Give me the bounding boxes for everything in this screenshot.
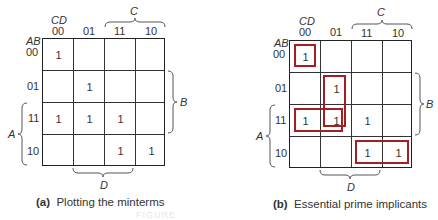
brace-a — [266, 104, 276, 168]
kmap-panel-b: C CD 00 01 11 10 AB 00 01 11 10 1 1 1 1 … — [219, 0, 438, 220]
var-a-label: A — [8, 129, 15, 140]
var-c-label: C — [130, 6, 138, 17]
var-c-label: C — [377, 7, 385, 18]
brace-d — [319, 170, 381, 180]
caption-text: Plotting the minterms — [56, 196, 164, 208]
col-label-01: 01 — [330, 27, 342, 38]
loop-m0 — [294, 44, 316, 67]
cell-r2-c2: 1 — [105, 103, 136, 135]
brace-b — [168, 70, 178, 134]
caption-b: (b) Essential prime implicants — [273, 198, 427, 210]
brace-d — [72, 168, 134, 178]
kmap-grid: 1 1 1 1 1 1 1 — [289, 40, 412, 168]
row-label-10: 10 — [27, 146, 39, 157]
var-a-label: A — [256, 131, 263, 142]
cell-r2-c2: 1 — [352, 105, 383, 137]
row-label-01: 01 — [275, 83, 287, 94]
brace-b — [415, 72, 425, 136]
brace-a — [18, 102, 28, 166]
col-label-10: 10 — [392, 28, 404, 39]
cell-r3-c2: 1 — [105, 135, 136, 167]
loop-row10-cols11-10 — [355, 140, 409, 164]
var-b-label: B — [426, 99, 433, 110]
var-d-label: D — [100, 180, 108, 191]
caption-text: Essential prime implicants — [294, 198, 427, 210]
col-label-10: 10 — [145, 26, 157, 37]
row-label-01: 01 — [27, 81, 39, 92]
col-label-00: 00 — [299, 27, 311, 38]
cell-r0-c0: 1 — [43, 39, 74, 71]
cell-r1-c1: 1 — [74, 71, 105, 103]
caption-a: (a) Plotting the minterms — [36, 196, 164, 208]
row-label-00: 00 — [273, 49, 285, 60]
row-label-10: 10 — [275, 148, 287, 159]
cell-r2-c0: 1 — [43, 103, 74, 135]
figure-footer: FIGURE — [136, 210, 176, 220]
caption-tag: (b) — [273, 198, 288, 210]
kmap-panel-a: C CD 00 01 11 10 AB 00 01 11 10 1 1 1 1 … — [0, 0, 219, 220]
col-label-00: 00 — [52, 26, 64, 37]
caption-tag: (a) — [36, 196, 50, 208]
var-b-label: B — [180, 97, 187, 108]
col-label-01: 01 — [83, 26, 95, 37]
row-label-11: 11 — [275, 115, 286, 126]
row-label-11: 11 — [28, 113, 39, 124]
col-label-11: 11 — [361, 28, 372, 39]
col-label-11: 11 — [114, 26, 125, 37]
loop-row11-cols00-01 — [294, 108, 343, 132]
cell-r3-c3: 1 — [136, 135, 167, 167]
kmap-grid: 1 1 1 1 1 1 1 — [42, 38, 165, 166]
row-label-00: 00 — [26, 47, 38, 58]
var-d-label: D — [347, 182, 355, 193]
cell-r2-c1: 1 — [74, 103, 105, 135]
